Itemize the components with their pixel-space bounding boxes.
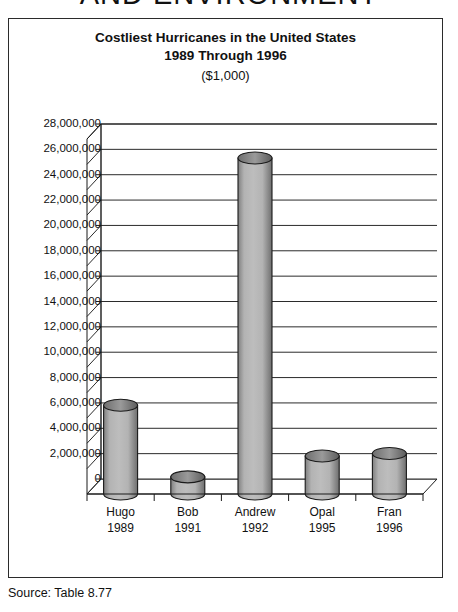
x-axis-tick-labels: Hugo1989Bob1991Andrew1992Opal1995Fran199… (9, 19, 444, 579)
x-tick-group-andrew: Andrew1992 (235, 504, 276, 536)
x-tick-label-year: 1995 (309, 520, 336, 536)
x-tick-label-name: Fran (376, 504, 403, 520)
page-running-head: AND ENVIRONMENT (0, 0, 458, 11)
x-tick-group-hugo: Hugo1989 (106, 504, 135, 536)
x-tick-group-opal: Opal1995 (309, 504, 336, 536)
x-tick-group-fran: Fran1996 (376, 504, 403, 536)
x-tick-label-year: 1991 (174, 520, 201, 536)
x-tick-label-year: 1996 (376, 520, 403, 536)
x-tick-label-name: Hugo (106, 504, 135, 520)
x-tick-group-bob: Bob1991 (174, 504, 201, 536)
x-tick-label-name: Andrew (235, 504, 276, 520)
source-note: Source: Table 8.77 (8, 586, 112, 600)
figure-frame: Costliest Hurricanes in the United State… (8, 18, 443, 578)
x-tick-label-year: 1992 (235, 520, 276, 536)
x-tick-label-name: Opal (309, 504, 336, 520)
x-tick-label-year: 1989 (106, 520, 135, 536)
x-tick-label-name: Bob (174, 504, 201, 520)
